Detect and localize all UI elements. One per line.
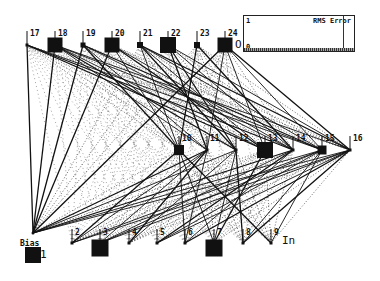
weight-bias-output-18 — [33, 45, 55, 233]
rms-plot-cursor — [343, 16, 344, 51]
node-id-label: 20 — [115, 29, 125, 38]
node-id-label: 2 — [75, 228, 80, 237]
activation-square — [156, 242, 159, 245]
activation-square — [194, 42, 200, 48]
activation-square — [257, 142, 273, 158]
activation-square — [105, 38, 120, 53]
activation-square — [174, 145, 184, 155]
weight-bias-hidden-11 — [33, 150, 207, 233]
node-id-label: 22 — [171, 29, 181, 38]
input-node-5: 5 — [156, 228, 166, 245]
activation-square — [235, 149, 238, 152]
node-id-label: 10 — [182, 134, 192, 143]
activation-square — [218, 38, 233, 53]
node-id-label: 5 — [160, 228, 165, 237]
node-id-label: 19 — [86, 29, 96, 38]
activation-square — [26, 44, 29, 47]
rms-error-plot: 1 RMS Error 0 — [243, 15, 355, 52]
strong-connections — [27, 45, 350, 243]
node-id-label: 7 — [217, 228, 222, 237]
hidden-node-16: 16 — [349, 134, 363, 152]
node-id-label: 9 — [274, 228, 279, 237]
input-node-8: 8 — [242, 228, 252, 245]
weight-input-8-hidden-12 — [236, 150, 243, 243]
activation-square — [81, 43, 86, 48]
output-node-19: 19 — [81, 29, 96, 48]
activation-square — [92, 240, 109, 257]
bias-anchor — [32, 232, 35, 235]
input-node-7: 7 — [206, 228, 223, 257]
weight-input-2-output-17 — [27, 45, 72, 243]
node-id-label: 24 — [228, 29, 238, 38]
node-id-label: 16 — [353, 134, 363, 143]
activation-square — [137, 42, 143, 48]
weight-bias-output-20 — [33, 45, 112, 233]
node-id-label: 8 — [246, 228, 251, 237]
hidden-node-12: 12 — [235, 134, 249, 152]
activation-square — [128, 242, 131, 245]
rms-y-max-label: 1 — [246, 17, 250, 25]
rms-plot-title: RMS Error — [313, 17, 351, 25]
output-node-22: 22 — [160, 29, 181, 53]
output-node-17: 17 — [26, 29, 40, 47]
input-layer-label: In — [282, 234, 295, 247]
weight-bias-hidden-13 — [33, 150, 265, 233]
activation-square — [318, 146, 327, 155]
activation-square — [71, 242, 74, 245]
activation-square — [48, 38, 63, 53]
activation-square — [184, 242, 187, 245]
node-id-label: 18 — [58, 29, 68, 38]
node-id-label: 11 — [210, 134, 220, 143]
weight-bias-output-21 — [33, 45, 140, 233]
bias-label: Bias — [20, 238, 39, 248]
node-id-label: 15 — [325, 134, 335, 143]
activation-square — [242, 242, 245, 245]
hidden-node-11: 11 — [206, 134, 220, 152]
activation-square — [206, 240, 223, 257]
output-layer-label: O — [235, 38, 242, 51]
activation-square — [292, 149, 295, 152]
node-id-label: 4 — [132, 228, 137, 237]
weight-input-7-output-17 — [27, 45, 214, 243]
activation-square — [25, 247, 41, 263]
rms-error-trace — [244, 48, 354, 51]
node-id-label: 13 — [268, 134, 278, 143]
weight-bias-hidden-14 — [33, 150, 293, 233]
node-id-label: 23 — [200, 29, 210, 38]
hidden-node-14: 14 — [292, 134, 306, 152]
activation-square — [349, 149, 352, 152]
node-id-label: 12 — [239, 134, 249, 143]
input-node-9: 9 — [270, 228, 280, 245]
node-id-label: 17 — [30, 29, 40, 38]
output-node-21: 21 — [137, 29, 153, 48]
node-id-label: 6 — [188, 228, 193, 237]
activation-square — [270, 242, 273, 245]
weight-input-5-hidden-16 — [157, 150, 350, 243]
activation-square — [160, 37, 176, 53]
weight-hidden-16-output-18 — [55, 45, 350, 150]
output-node-23: 23 — [194, 29, 210, 48]
weight-bias-hidden-10 — [33, 150, 179, 233]
weight-hidden-10-output-17 — [27, 45, 179, 150]
node-id-label: 14 — [296, 134, 306, 143]
node-id-label: 21 — [143, 29, 153, 38]
node-id-label: 3 — [103, 228, 108, 237]
input-node-6: 6 — [184, 228, 194, 245]
weight-bias-output-17 — [27, 45, 33, 233]
weight-bias-output-24 — [33, 45, 225, 233]
activation-square — [206, 149, 209, 152]
bias-id-label: 1 — [40, 248, 47, 261]
